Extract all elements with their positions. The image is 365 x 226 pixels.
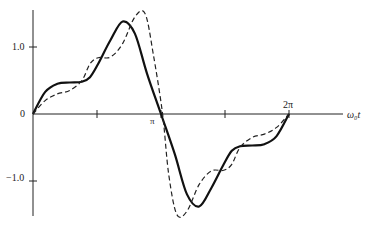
x-axis-label: ω₀t bbox=[347, 110, 360, 120]
y-tick-label-neg1: −1.0 bbox=[6, 173, 24, 183]
x-tick-label-2pi: 2π bbox=[283, 100, 293, 110]
x-tick-label-pi: π bbox=[150, 117, 155, 126]
y-tick-label-1: 1.0 bbox=[12, 42, 25, 52]
origin-label: 0 bbox=[20, 109, 25, 119]
chart-plot bbox=[0, 0, 365, 226]
